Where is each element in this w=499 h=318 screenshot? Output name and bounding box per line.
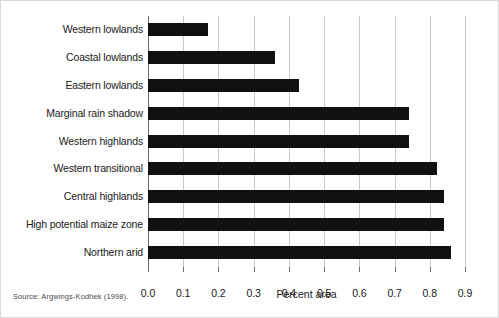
x-tick-0.8 xyxy=(430,267,431,272)
bar-row xyxy=(148,100,465,128)
bar xyxy=(148,107,409,120)
bar-row xyxy=(148,239,465,267)
category-label: Western lowlands xyxy=(3,23,143,35)
x-tick-0.0 xyxy=(148,267,149,272)
category-label: Eastern lowlands xyxy=(3,79,143,91)
category-label: Central highlands xyxy=(3,190,143,202)
bar-row xyxy=(148,72,465,100)
category-label: Marginal rain shadow xyxy=(3,107,143,119)
figure-bar-chart: Western lowlandsCoastal lowlandsEastern … xyxy=(0,0,499,318)
category-label: Northern arid xyxy=(3,246,143,258)
x-axis: 0.00.10.20.30.40.50.60.70.80.9 xyxy=(148,16,465,56)
x-axis-title: Percent area xyxy=(148,288,465,300)
source-caption: Source: Argwings-Kodhek (1998). xyxy=(13,292,128,301)
x-tick-0.7 xyxy=(395,267,396,272)
x-tick-0.6 xyxy=(359,267,360,272)
bar-row xyxy=(148,211,465,239)
bar xyxy=(148,190,444,203)
x-tick-0.3 xyxy=(254,267,255,272)
category-label: Western transitional xyxy=(3,162,143,174)
category-label: Western highlands xyxy=(3,135,143,147)
gridline-0.9 xyxy=(465,16,466,267)
bar-row xyxy=(148,155,465,183)
bar xyxy=(148,246,451,259)
x-tick-0.1 xyxy=(183,267,184,272)
x-tick-0.2 xyxy=(218,267,219,272)
x-tick-0.4 xyxy=(289,267,290,272)
bar-row xyxy=(148,128,465,156)
category-axis-labels: Western lowlandsCoastal lowlandsEastern … xyxy=(1,16,143,267)
bar xyxy=(148,135,409,148)
category-label: Coastal lowlands xyxy=(3,51,143,63)
bar xyxy=(148,218,444,231)
x-tick-0.9 xyxy=(465,267,466,272)
bar xyxy=(148,162,437,175)
category-label: High potential maize zone xyxy=(3,218,143,230)
bar-row xyxy=(148,183,465,211)
bar xyxy=(148,79,299,92)
x-tick-0.5 xyxy=(324,267,325,272)
